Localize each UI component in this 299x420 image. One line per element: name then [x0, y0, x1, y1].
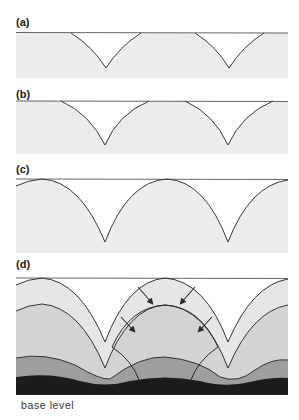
panel-a [16, 33, 288, 79]
panel-b [16, 101, 288, 154]
panel-d [16, 278, 288, 395]
landscape-diagram [0, 0, 299, 420]
panel-c [16, 179, 288, 253]
base-level-caption: base level [21, 399, 74, 411]
